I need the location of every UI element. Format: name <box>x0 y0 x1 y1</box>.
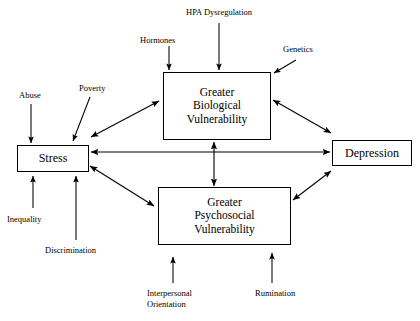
label-genetics: Genetics <box>283 44 313 55</box>
label-poverty: Poverty <box>79 83 105 94</box>
node-biological-label: Greater Biological Vulnerability <box>187 86 248 127</box>
label-rumination: Rumination <box>255 288 295 299</box>
label-inequality: Inequality <box>7 214 41 225</box>
label-hpa-dysregulation: HPA Dysregulation <box>186 7 252 18</box>
label-hormones: Hormones <box>140 35 175 46</box>
concept-diagram: Stress Greater Biological Vulnerability … <box>0 0 420 321</box>
edge-stress-biological <box>91 101 159 137</box>
node-depression-label: Depression <box>345 146 399 160</box>
node-stress[interactable]: Stress <box>17 145 89 172</box>
edge-psychosocial-depression <box>293 171 331 200</box>
edge-stress-psychosocial <box>90 166 154 206</box>
edge-biological-depression <box>273 100 331 133</box>
edge-poverty-stress <box>73 97 90 141</box>
node-greater-biological-vulnerability[interactable]: Greater Biological Vulnerability <box>163 72 271 140</box>
label-discrimination: Discrimination <box>45 245 96 256</box>
node-greater-psychosocial-vulnerability[interactable]: Greater Psychosocial Vulnerability <box>158 187 291 245</box>
node-stress-label: Stress <box>39 151 68 165</box>
edge-genetics-biological <box>274 60 296 73</box>
label-interpersonal-orientation: Interpersonal Orientation <box>147 288 192 309</box>
node-depression[interactable]: Depression <box>332 140 412 166</box>
label-abuse: Abuse <box>19 90 41 101</box>
node-psychosocial-label: Greater Psychosocial Vulnerability <box>194 196 255 237</box>
